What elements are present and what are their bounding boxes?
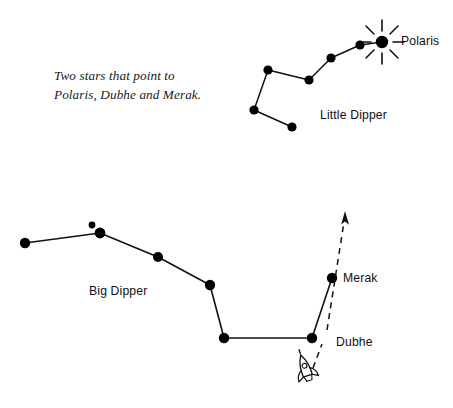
line-handleend-mizar bbox=[25, 233, 100, 243]
big-dipper-stars bbox=[20, 222, 337, 344]
line-mizar-handle3 bbox=[100, 233, 158, 257]
star-big-bowl-ne bbox=[205, 280, 215, 290]
label-little-dipper: Little Dipper bbox=[320, 108, 387, 122]
line-bowlsw-bowlse bbox=[254, 110, 292, 127]
line-handle3-bowlne bbox=[309, 58, 331, 80]
line-bowlne-bowlse bbox=[210, 285, 224, 338]
constellation-diagram: Two stars that point to Polaris, Dubhe a… bbox=[0, 0, 453, 408]
pointer-segment-lower bbox=[313, 344, 322, 368]
arrow-up-icon bbox=[341, 211, 349, 225]
star-little-handle-2 bbox=[355, 40, 364, 49]
star-little-bowl-ne bbox=[304, 75, 313, 84]
star-little-bowl-se bbox=[287, 122, 296, 131]
line-handle2-handle3 bbox=[331, 45, 360, 58]
label-polaris: Polaris bbox=[401, 34, 439, 48]
star-alcor bbox=[89, 222, 96, 229]
label-big-dipper: Big Dipper bbox=[89, 284, 147, 298]
figure-caption: Two stars that point to Polaris, Dubhe a… bbox=[54, 66, 264, 104]
caption-line-2: Polaris, Dubhe and Merak. bbox=[54, 85, 264, 104]
big-dipper-lines bbox=[25, 233, 332, 338]
line-bowlne-bowlnw bbox=[268, 70, 309, 80]
star-little-bowl-nw bbox=[263, 65, 272, 74]
star-mizar bbox=[95, 228, 106, 239]
star-big-bowl-se bbox=[219, 333, 229, 343]
rocket-trail bbox=[299, 349, 301, 354]
star-polaris bbox=[376, 36, 388, 48]
star-big-handle-end bbox=[20, 238, 30, 248]
line-handle3-bowlne bbox=[158, 257, 210, 285]
caption-line-1: Two stars that point to bbox=[54, 66, 264, 85]
star-little-handle-3 bbox=[326, 53, 335, 62]
star-big-handle-3 bbox=[153, 252, 163, 262]
line-bowlsw-merak bbox=[312, 278, 332, 338]
star-dubhe bbox=[307, 333, 317, 343]
arrowhead-shape bbox=[341, 211, 349, 225]
star-little-bowl-sw bbox=[249, 105, 258, 114]
sky-canvas bbox=[0, 0, 453, 408]
label-dubhe: Dubhe bbox=[336, 335, 373, 349]
label-merak: Merak bbox=[343, 271, 378, 285]
